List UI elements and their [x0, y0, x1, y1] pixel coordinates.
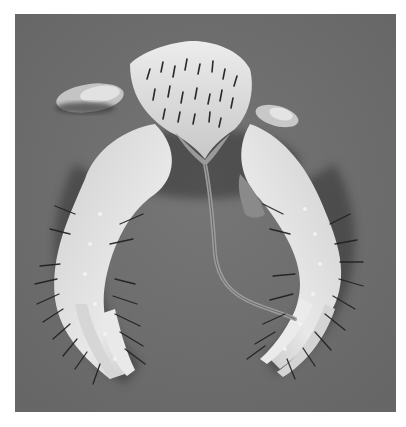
photo [15, 14, 396, 412]
crustacean-illustration [15, 14, 396, 412]
